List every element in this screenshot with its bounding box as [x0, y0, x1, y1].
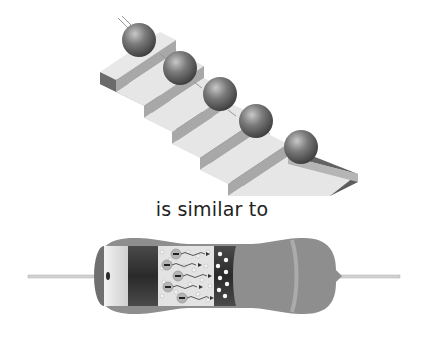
carbon-core-left	[128, 246, 158, 306]
caption-text: is similar to	[0, 198, 424, 220]
ball-4	[239, 104, 273, 138]
ball-1	[122, 23, 156, 57]
ball-5	[284, 130, 318, 164]
ball-2	[163, 51, 197, 85]
lead-entry	[106, 272, 110, 280]
resistor-cutaway-illustration	[0, 230, 424, 344]
staircase-balls-illustration	[0, 0, 424, 200]
ball-3	[203, 77, 237, 111]
lead-right	[340, 275, 400, 278]
